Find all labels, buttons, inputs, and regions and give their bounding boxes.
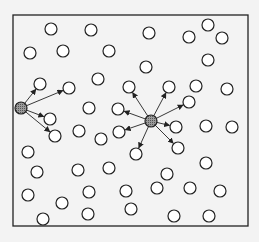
node-circle: [113, 126, 125, 138]
node-circle: [120, 185, 132, 197]
broadcast-arrow: [124, 111, 145, 119]
node-circle: [82, 208, 94, 220]
node-circle: [44, 113, 56, 125]
node-circle: [72, 164, 84, 176]
node-circle: [92, 73, 104, 85]
node-circle: [22, 189, 34, 201]
node-circle: [103, 162, 115, 174]
node-circle: [125, 203, 137, 215]
network-nodes: [22, 19, 238, 225]
broadcast-arrow: [133, 92, 148, 116]
node-circle: [49, 130, 61, 142]
node-circle: [172, 142, 184, 154]
hub-center: [145, 115, 157, 127]
node-circle: [151, 182, 163, 194]
node-circle: [143, 27, 155, 39]
node-circle: [130, 148, 142, 160]
broadcast-arrow: [27, 91, 63, 106]
node-circle: [63, 82, 75, 94]
broadcast-arrow: [154, 93, 166, 116]
node-circle: [83, 186, 95, 198]
broadcast-arrow: [25, 89, 36, 103]
node-circle: [112, 103, 124, 115]
node-circle: [45, 23, 57, 35]
node-circle: [221, 83, 233, 95]
node-circle: [83, 102, 95, 114]
node-circle: [202, 54, 214, 66]
node-circle: [73, 125, 85, 137]
node-circle: [200, 157, 212, 169]
node-circle: [203, 210, 215, 222]
node-circle: [163, 81, 175, 93]
broadcast-arrow: [139, 126, 149, 148]
node-circle: [190, 80, 202, 92]
node-circle: [57, 45, 69, 57]
node-circle: [214, 185, 226, 197]
node-circle: [31, 166, 43, 178]
node-circle: [216, 32, 228, 44]
node-circle: [37, 213, 49, 225]
node-circle: [226, 121, 238, 133]
node-circle: [22, 146, 34, 158]
node-circle: [183, 96, 195, 108]
node-circle: [56, 197, 68, 209]
node-circle: [183, 31, 195, 43]
node-circle: [140, 61, 152, 73]
broadcast-arrow: [157, 122, 170, 125]
broadcast-arrow: [125, 123, 145, 130]
node-circle: [168, 210, 180, 222]
node-circle: [95, 133, 107, 145]
node-circle: [123, 81, 135, 93]
node-circle: [202, 19, 214, 31]
node-circle: [85, 24, 97, 36]
node-circle: [161, 168, 173, 180]
broadcast-arrow: [156, 105, 183, 118]
node-circle: [200, 120, 212, 132]
network-diagram: [0, 0, 259, 242]
node-circle: [24, 47, 36, 59]
node-circle: [170, 121, 182, 133]
hub-left: [15, 102, 27, 114]
node-circle: [184, 182, 196, 194]
node-circle: [34, 78, 46, 90]
node-circle: [103, 45, 115, 57]
broadcast-arrow: [27, 110, 44, 117]
